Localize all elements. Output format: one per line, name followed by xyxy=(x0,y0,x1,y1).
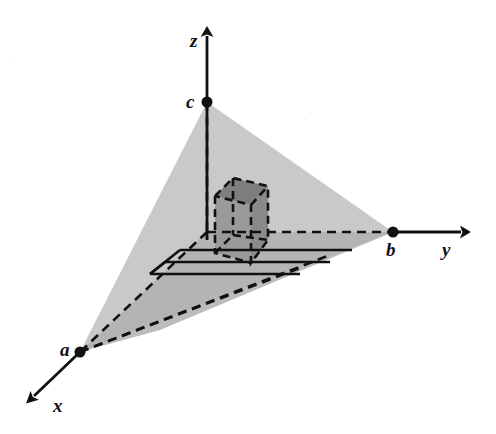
vertex-b-dot xyxy=(388,227,399,238)
vertex-b-label: b xyxy=(386,239,396,260)
vertex-a-dot xyxy=(75,347,86,358)
y-axis-label: y xyxy=(440,239,451,260)
speck-upper-right-icon: · xyxy=(310,109,312,117)
z-axis-label: z xyxy=(189,30,198,51)
vertex-c-dot xyxy=(202,97,213,108)
figure-canvas: z y x c b a · · xyxy=(0,0,496,434)
vertex-c-label: c xyxy=(186,91,195,112)
vertex-a-label: a xyxy=(60,339,70,360)
figure-root: z y x c b a · · xyxy=(0,0,496,434)
x-axis-label: x xyxy=(52,395,63,416)
speck-upper-left-icon: · xyxy=(14,56,16,64)
x-axis-line xyxy=(34,352,80,396)
